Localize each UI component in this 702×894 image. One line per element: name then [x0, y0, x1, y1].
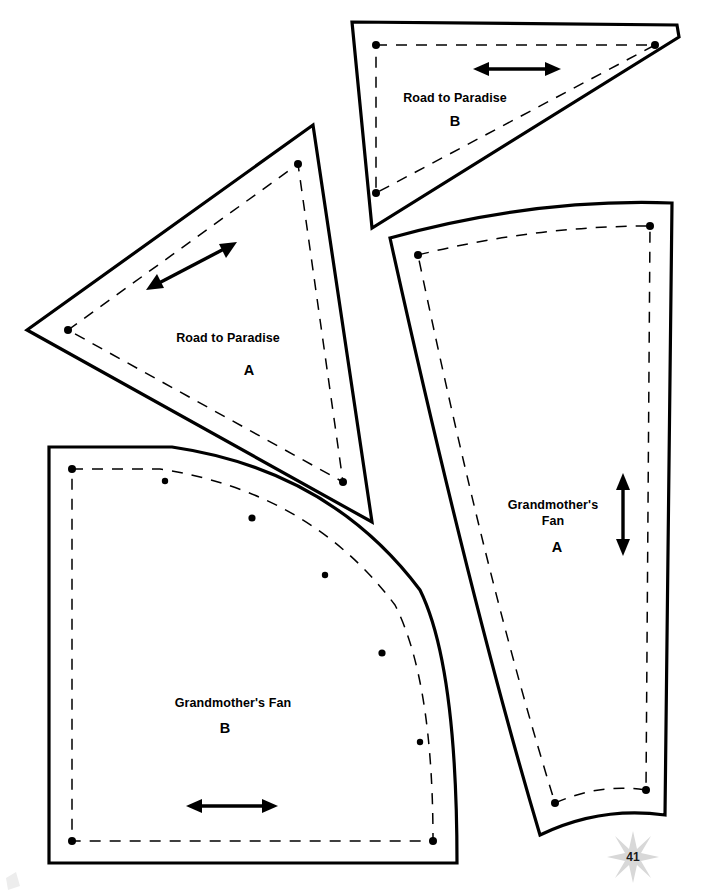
seam-dot [414, 251, 422, 259]
page-number-ornament: 41 [607, 831, 659, 883]
pattern-page: Road to Paradise B Road to Paradise A [0, 0, 702, 894]
seam-dot [339, 478, 347, 486]
seam-dot [372, 189, 380, 197]
piece-letter-grandmothers-fan-b: B [220, 720, 230, 736]
piece-label-road-to-paradise-b: Road to Paradise [403, 91, 507, 105]
seam-dot [378, 649, 385, 656]
seam-dot [68, 465, 76, 473]
piece-label-grandmothers-fan-a-line2: Fan [542, 514, 565, 528]
piece-label-grandmothers-fan-a-line1: Grandmother's [508, 498, 598, 512]
seam-dot [551, 799, 559, 807]
corner-fleck-mark [6, 872, 20, 890]
piece-label-grandmothers-fan-b: Grandmother's Fan [175, 696, 292, 710]
seam-dot [162, 478, 168, 484]
seam-dot [642, 786, 650, 794]
seam-dot [417, 739, 423, 745]
cut-line-grandmothers-fan-b [49, 447, 457, 863]
piece-road-to-paradise-b[interactable]: Road to Paradise B [352, 22, 679, 228]
piece-letter-road-to-paradise-b: B [450, 113, 460, 129]
cut-line-road-to-paradise-b [352, 22, 679, 228]
seam-dot [646, 222, 654, 230]
piece-letter-grandmothers-fan-a: A [552, 539, 563, 555]
seam-dot [429, 837, 437, 845]
seam-dot [294, 160, 302, 168]
pattern-sheet: Road to Paradise B Road to Paradise A [0, 0, 702, 894]
piece-letter-road-to-paradise-a: A [244, 362, 255, 378]
seam-dot [68, 837, 76, 845]
seam-dot [64, 326, 72, 334]
seam-dot [372, 41, 380, 49]
piece-grandmothers-fan-b[interactable]: Grandmother's Fan B [49, 447, 457, 863]
seam-dot [322, 572, 328, 578]
piece-label-road-to-paradise-a: Road to Paradise [176, 331, 280, 345]
page-number: 41 [626, 850, 640, 864]
seam-dot [651, 41, 659, 49]
seam-dot [248, 514, 255, 521]
